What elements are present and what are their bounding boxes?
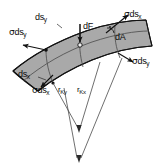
label-ds-x-bottomleft: dsx [18,70,30,79]
label-sigma-ds-x-bottom: σdsx [32,86,50,95]
label-sigma-ds-y-right: σdsy [132,57,150,66]
label-dA: dA [115,33,126,42]
angle-marker-vertex [109,26,111,28]
leader-dsy-top [57,24,62,28]
label-sigma-ds-x-topright: σdsx [124,10,142,19]
diagram-canvas [0,0,164,167]
label-dF: dF [83,22,93,31]
radius-arrowhead-ky [76,125,81,133]
label-r-ky: rKy [58,86,67,94]
label-sigma-ds-y-left: σdsy [9,28,27,37]
radius-line-kx-right [81,58,122,158]
label-ds-y-top: dsy [35,13,47,22]
tension-arrow-sigma-dsy-left [23,45,46,50]
surface-tension-diagram: dsy σdsy dF σdsx dA σdsy dsx σdsx rKy rK… [0,0,164,167]
label-r-kx: rKx [77,86,86,94]
tension-arrow-sigma-dsy-right [118,53,133,62]
radius-arrowhead-kx [76,155,81,163]
force-application-point [78,43,82,47]
